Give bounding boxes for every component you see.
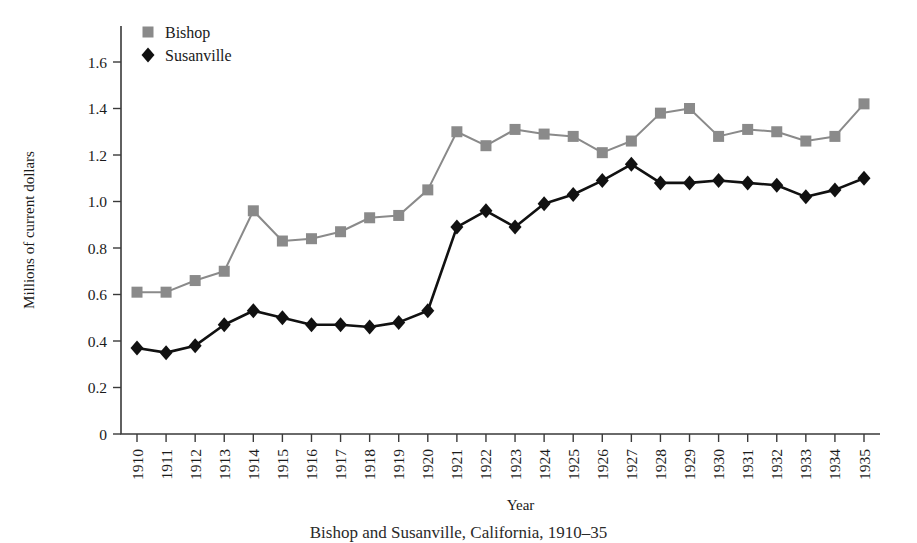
x-tick-label: 1933: [797, 449, 814, 480]
x-tick-label: 1919: [390, 449, 407, 480]
x-tick-label: 1935: [856, 449, 873, 480]
legend-label-susanville: Susanville: [165, 47, 232, 64]
series-marker: [392, 315, 405, 330]
x-axis-title: Year: [507, 497, 535, 513]
x-tick-label: 1913: [216, 449, 233, 480]
y-tick-label: 0.6: [88, 286, 108, 303]
x-tick-label: 1932: [768, 449, 785, 480]
series-marker: [568, 131, 579, 142]
series-marker: [770, 178, 783, 193]
x-tick-label: 1930: [710, 449, 727, 480]
x-tick-label: 1931: [739, 449, 756, 480]
series-marker: [712, 173, 725, 188]
series-marker: [829, 131, 840, 142]
series-marker: [742, 124, 753, 135]
y-tick-label: 1.4: [88, 100, 108, 117]
x-tick-label: 1929: [681, 449, 698, 480]
series-marker: [364, 212, 375, 223]
x-tick-label: 1934: [826, 449, 843, 480]
x-tick-label: 1923: [507, 449, 524, 480]
y-tick-label: 0.4: [88, 333, 108, 350]
series-marker: [218, 317, 231, 332]
series-marker: [654, 175, 667, 190]
y-tick-label: 1.2: [88, 147, 107, 164]
legend-marker-susanville: [142, 48, 155, 63]
series-marker: [683, 175, 696, 190]
y-tick-label: 0.2: [88, 379, 107, 396]
x-tick-label: 1911: [158, 449, 175, 479]
series-marker: [189, 338, 202, 353]
series-marker: [799, 189, 812, 204]
x-tick-label: 1921: [448, 449, 465, 480]
x-tick-label: 1918: [361, 449, 378, 480]
chart-axes: [121, 26, 880, 434]
series-line: [137, 164, 864, 352]
line-chart: 00.20.40.60.81.01.21.41.6Millions of cur…: [0, 0, 917, 543]
series-marker: [248, 205, 259, 216]
series-marker: [393, 210, 404, 221]
series-marker: [305, 317, 318, 332]
series-marker: [655, 108, 666, 119]
x-tick-label: 1910: [129, 449, 146, 480]
series-marker: [626, 136, 637, 147]
figure-caption: Bishop and Susanville, California, 1910–…: [0, 523, 917, 543]
x-tick-label: 1914: [245, 449, 262, 480]
chart-series: [132, 98, 870, 297]
series-marker: [219, 266, 230, 277]
series-marker: [567, 187, 580, 202]
x-tick-label: 1926: [594, 449, 611, 480]
legend-label-bishop: Bishop: [165, 24, 210, 42]
series-marker: [247, 303, 260, 318]
y-tick-label: 0.8: [88, 240, 108, 257]
series-marker: [132, 287, 143, 298]
series-marker: [800, 136, 811, 147]
x-tick-label: 1916: [303, 449, 320, 480]
series-marker: [539, 129, 550, 140]
series-marker: [771, 126, 782, 137]
series-marker: [190, 275, 201, 286]
series-line: [137, 104, 864, 292]
y-axis-title: Millions of current dollars: [21, 151, 37, 309]
series-marker: [684, 103, 695, 114]
series-marker: [828, 182, 841, 197]
y-tick-label: 0: [99, 426, 107, 443]
series-marker: [596, 173, 609, 188]
chart-series: [131, 157, 871, 360]
series-marker: [741, 175, 754, 190]
series-marker: [335, 226, 346, 237]
x-tick-label: 1920: [419, 449, 436, 480]
series-marker: [450, 220, 463, 235]
series-marker: [421, 303, 434, 318]
legend-marker-bishop: [143, 27, 154, 38]
x-tick-label: 1927: [623, 449, 640, 480]
series-marker: [363, 320, 376, 335]
series-marker: [306, 233, 317, 244]
series-marker: [422, 184, 433, 195]
y-tick-label: 1.0: [88, 193, 108, 210]
series-marker: [451, 126, 462, 137]
series-marker: [858, 171, 871, 186]
series-marker: [480, 140, 491, 151]
series-marker: [859, 98, 870, 109]
series-marker: [334, 317, 347, 332]
x-tick-label: 1924: [536, 449, 553, 480]
series-marker: [625, 157, 638, 172]
x-tick-label: 1925: [565, 449, 582, 480]
figure-container: 00.20.40.60.81.01.21.41.6Millions of cur…: [0, 0, 917, 543]
series-marker: [713, 131, 724, 142]
series-marker: [510, 124, 521, 135]
x-tick-label: 1922: [477, 449, 494, 480]
series-marker: [131, 340, 144, 355]
x-tick-label: 1928: [652, 449, 669, 480]
series-marker: [277, 236, 288, 247]
x-tick-label: 1917: [332, 449, 349, 480]
series-marker: [597, 147, 608, 158]
series-marker: [276, 310, 289, 325]
series-marker: [479, 203, 492, 218]
series-marker: [161, 287, 172, 298]
series-marker: [160, 345, 173, 360]
y-tick-label: 1.6: [88, 54, 108, 71]
chart-legend: BishopSusanville: [142, 24, 232, 64]
x-tick-label: 1912: [187, 449, 204, 480]
x-tick-label: 1915: [274, 449, 291, 480]
